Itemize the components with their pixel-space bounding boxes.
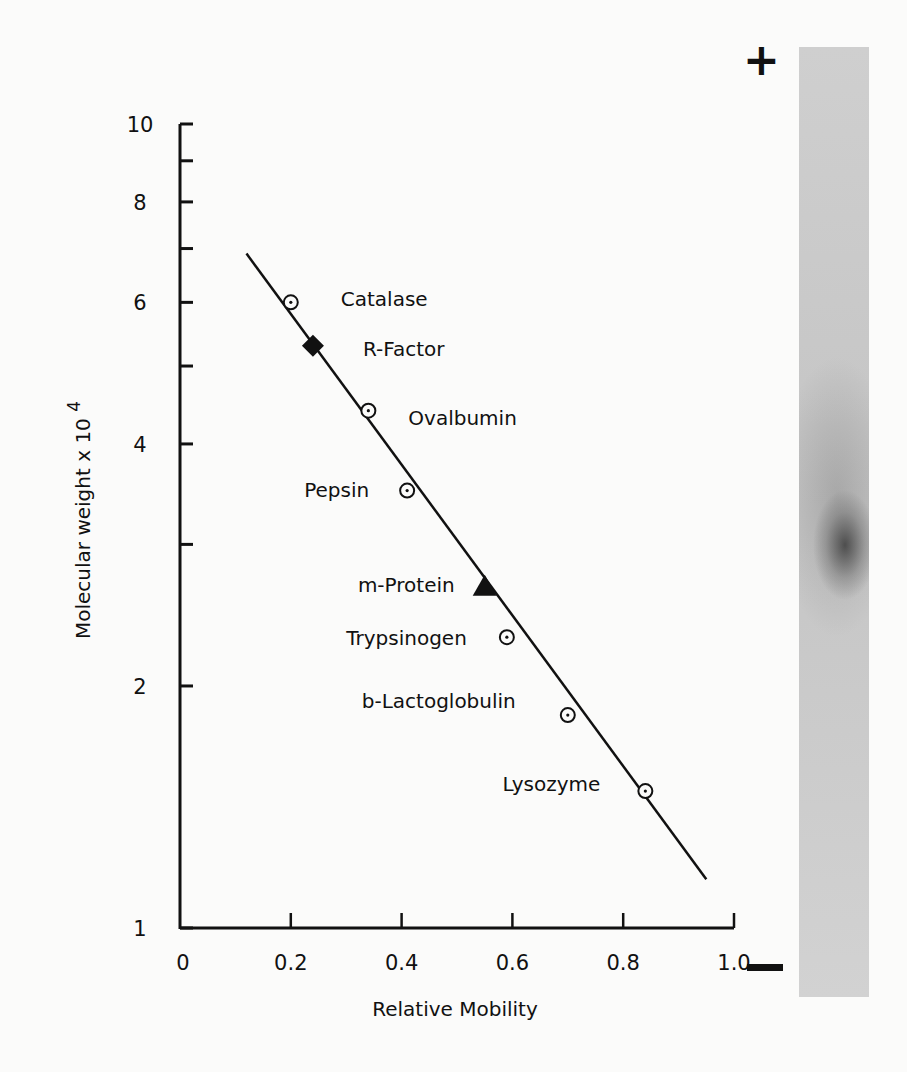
point-label: R-Factor [363,337,445,361]
x-tick-label: 0.6 [496,951,529,975]
point-label: Lysozyme [502,772,600,796]
point-label: m-Protein [358,573,455,597]
x-tick-label: 0 [176,951,189,975]
chart: 1246810 00.20.40.60.81.0 Relative Mobili… [0,0,907,1072]
triangle-marker-icon [473,575,497,596]
y-tick-label: 1 [133,917,146,941]
x-tick-label: 0.8 [606,951,639,975]
y-tick-label: 2 [133,675,146,699]
cathode-minus-icon [747,964,783,971]
y-tick-label: 6 [133,291,146,315]
anode-plus-icon: + [743,38,780,82]
y-tick-label: 8 [133,191,146,215]
y-axis-title: Molecular weight x 10 4 [64,401,95,639]
x-tick-label: 0.4 [385,951,418,975]
point-label: Catalase [341,287,428,311]
y-tick-label: 4 [133,433,146,457]
svg-text:Molecular weight x 10 4: Molecular weight x 10 4 [64,401,95,639]
x-axis-title: Relative Mobility [372,997,538,1021]
y-tick-label: 10 [127,113,154,137]
point-label: Pepsin [304,478,369,502]
y-axis: 1246810 [127,113,193,941]
x-tick-label: 1.0 [717,951,750,975]
data-points [284,295,653,798]
point-label: Ovalbumin [408,406,516,430]
gel-electrophoresis-strip [799,47,869,997]
x-tick-label: 0.2 [274,951,307,975]
point-label: Trypsinogen [345,626,467,650]
point-label: b-Lactoglobulin [362,689,516,713]
x-axis: 00.20.40.60.81.0 [176,913,750,975]
point-labels: CatalaseOvalbuminPepsinTrypsinogenb-Lact… [304,287,600,796]
